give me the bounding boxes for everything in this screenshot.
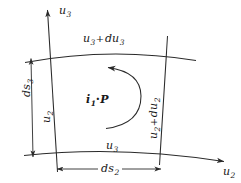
curvilinear-element-figure: u3 u3+du3 ds3 u2 u2+du2 i1·P u3 ds2 u2 (0, 0, 241, 183)
figure-canvas (0, 0, 241, 183)
center-point-label: i1·P (86, 93, 109, 105)
bottom-curve-edge-u2-axis (24, 151, 224, 161)
u2-axis-label: u2 (223, 166, 235, 177)
ds3-dimension-arrow (31, 59, 33, 158)
right-edge-label: u2+du2 (148, 98, 159, 139)
u3-axis-line (48, 10, 58, 172)
circulation-arc (106, 68, 141, 129)
ds3-dimension-label: ds3 (21, 79, 32, 97)
left-edge-label: u2 (41, 111, 52, 123)
ds2-dimension-label: ds2 (98, 163, 122, 174)
bottom-edge-label: u3 (106, 140, 118, 151)
top-edge-label: u3+du3 (83, 33, 124, 44)
u3-axis-label: u3 (59, 5, 71, 16)
